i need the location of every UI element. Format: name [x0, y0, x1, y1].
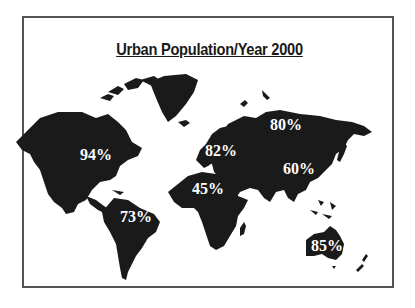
- madagascar: [240, 222, 246, 236]
- label-north-america: 94%: [80, 146, 112, 163]
- label-europe: 82%: [205, 142, 237, 159]
- label-south-america: 73%: [120, 208, 152, 225]
- north-america: [16, 112, 142, 214]
- southeast-asia: [310, 200, 336, 219]
- world-map: 94% 73% 82% 80% 45% 60% 85%: [0, 0, 415, 308]
- new-zealand: [356, 254, 368, 272]
- label-africa: 45%: [192, 180, 224, 197]
- tasmania: [332, 266, 336, 269]
- arctic-islands: [100, 76, 160, 101]
- label-russia: 80%: [270, 116, 302, 133]
- greenland: [150, 74, 198, 122]
- iceland: [178, 120, 190, 127]
- label-oceania: 85%: [311, 237, 343, 254]
- arctic-islands-east: [240, 90, 270, 107]
- label-asia: 60%: [283, 160, 315, 177]
